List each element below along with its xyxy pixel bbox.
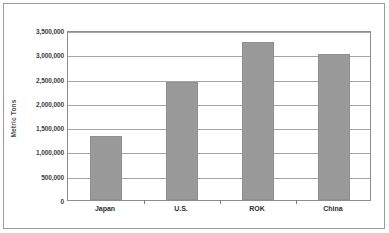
x-category-label-us: U.S.	[174, 205, 188, 212]
chart-screenshot: Metric Tons 3,500,000 3,000,000 2,500,00…	[0, 0, 389, 233]
y-tick-label: 0	[60, 198, 64, 205]
bar-china[interactable]	[318, 54, 350, 200]
y-axis-tick-labels: 3,500,000 3,000,000 2,500,000 2,000,000 …	[18, 31, 64, 201]
y-tick-label: 1,500,000	[36, 125, 64, 132]
x-category-label-japan: Japan	[95, 205, 115, 212]
y-tick-label: 1,000,000	[36, 149, 64, 156]
bars-layer	[68, 32, 370, 200]
bar-rok[interactable]	[242, 42, 274, 200]
x-category-label-rok: ROK	[249, 205, 265, 212]
x-axis-tick	[296, 200, 297, 204]
x-category-label-china: China	[323, 205, 342, 212]
y-tick-label: 500,000	[41, 173, 64, 180]
x-axis-tick	[220, 200, 221, 204]
y-tick-label: 2,000,000	[36, 100, 64, 107]
y-tick-label: 3,500,000	[36, 28, 64, 35]
y-tick-label: 2,500,000	[36, 76, 64, 83]
x-axis-category-labels: Japan U.S. ROK China	[67, 205, 371, 219]
y-axis-title-label: Metric Tons	[10, 99, 17, 137]
bar-japan[interactable]	[90, 136, 122, 200]
x-axis-tick	[144, 200, 145, 204]
plot-area	[67, 31, 371, 201]
bar-us[interactable]	[166, 82, 198, 200]
y-tick-label: 3,000,000	[36, 52, 64, 59]
